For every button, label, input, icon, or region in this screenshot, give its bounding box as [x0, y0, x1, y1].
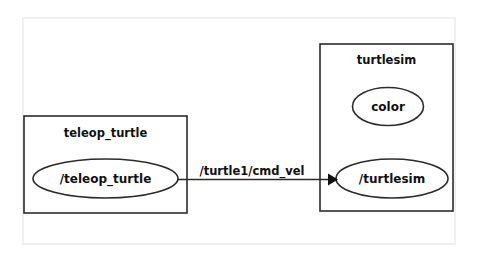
group-turtlesim[interactable]: turtlesim color /turtlesim — [320, 44, 453, 211]
edge-cmd-vel[interactable]: /turtle1/cmd_vel — [178, 164, 338, 186]
node-color-label: color — [371, 100, 405, 114]
node-turtlesim-label: /turtlesim — [359, 172, 425, 186]
group-turtlesim-label: turtlesim — [357, 53, 416, 67]
edge-cmd-vel-label: /turtle1/cmd_vel — [199, 164, 304, 179]
graph-svg: teleop_turtle /teleop_turtle turtlesim c… — [0, 0, 478, 262]
node-teleop-turtle-label: /teleop_turtle — [60, 172, 152, 187]
group-teleop-turtle[interactable]: teleop_turtle /teleop_turtle — [24, 116, 187, 213]
rqt-graph-canvas: teleop_turtle /teleop_turtle turtlesim c… — [0, 0, 478, 262]
group-teleop-turtle-label: teleop_turtle — [64, 126, 148, 141]
